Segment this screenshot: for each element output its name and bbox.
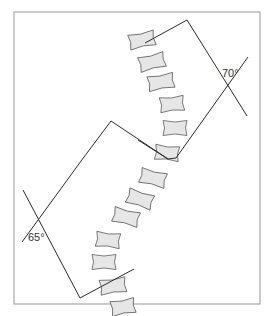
vertebra (95, 231, 120, 248)
lower-curve-perpendicular-upper (22, 157, 84, 242)
diagram-frame (14, 12, 260, 304)
vertebra (147, 72, 175, 91)
vertebra (139, 168, 168, 189)
vertebra (138, 52, 167, 73)
vertebra (112, 207, 141, 228)
upper-cobb-angle-label: 70° (222, 68, 239, 79)
vertebra (92, 255, 116, 270)
spine-vertebrae (92, 30, 187, 316)
diagram-canvas (0, 0, 267, 316)
vertebra (128, 30, 157, 50)
lower-cobb-angle-label: 65° (28, 232, 45, 243)
cobb-lines (22, 20, 248, 298)
cobb-angle-diagram: 70° 65° (0, 0, 267, 316)
vertebra (125, 188, 154, 210)
vertebra (110, 298, 136, 316)
vertebra (159, 95, 184, 112)
vertebra (163, 121, 187, 136)
